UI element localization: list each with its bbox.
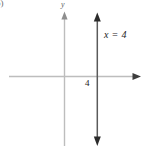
coordinate-plane-svg bbox=[0, 0, 143, 154]
graph-line-bottom-arrowhead-icon bbox=[94, 137, 101, 147]
x-axis bbox=[9, 73, 141, 80]
x-axis-arrowhead-icon bbox=[133, 73, 142, 80]
graph-figure: b) y x = 4 4 bbox=[0, 0, 143, 154]
x-intercept-label: 4 bbox=[85, 79, 90, 88]
graph-line-x-equals-4 bbox=[94, 13, 101, 147]
y-axis-arrowhead-icon bbox=[61, 12, 67, 20]
y-axis bbox=[61, 12, 67, 147]
line-equation-label: x = 4 bbox=[104, 30, 127, 40]
y-axis-label: y bbox=[61, 1, 65, 9]
graph-line-top-arrowhead-icon bbox=[94, 13, 101, 22]
